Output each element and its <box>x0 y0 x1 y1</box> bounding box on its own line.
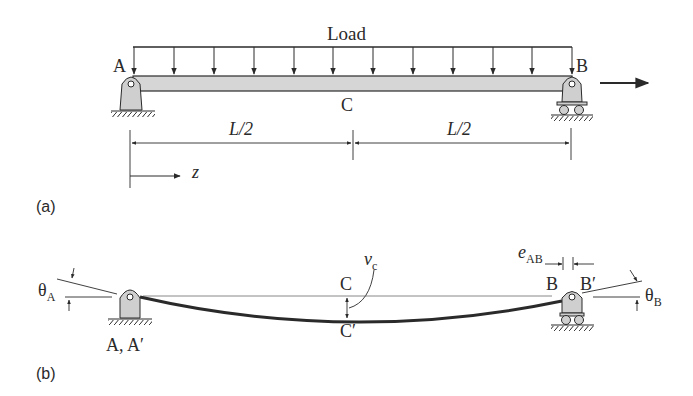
deflected-beam <box>140 297 562 322</box>
panel-label-a: (a) <box>36 199 56 215</box>
beam <box>133 76 572 91</box>
deflection-symbol: v <box>364 249 372 269</box>
span-right-label: L/2 <box>447 120 471 138</box>
load-label: Load <box>327 24 366 43</box>
deflection-label: vc <box>364 250 377 268</box>
pin-support-a-deflected <box>108 290 152 325</box>
theta-b-symbol: θ <box>645 285 654 305</box>
theta-a-subscript: A <box>47 290 56 304</box>
point-c-prime-label: C′ <box>340 322 356 340</box>
shortening-subscript: AB <box>526 252 543 266</box>
theta-a-symbol: θ <box>38 280 47 300</box>
shortening-label: eAB <box>518 243 543 261</box>
theta-a-label: θA <box>38 281 55 299</box>
shortening-eab <box>545 257 594 270</box>
roller-support-b-deflected <box>551 292 594 332</box>
shortening-symbol: e <box>518 242 526 262</box>
support-a-label: A, A′ <box>106 336 144 354</box>
point-a-label: A <box>113 57 126 75</box>
point-c-label-b: C <box>340 275 352 293</box>
theta-b-subscript: B <box>654 295 662 309</box>
point-b-prime-label: B′ <box>580 275 596 293</box>
theta-b-label: θB <box>645 286 662 304</box>
point-b-label: B <box>576 57 588 75</box>
rotation-angle-a <box>57 268 117 311</box>
deflection-subscript: c <box>372 259 377 273</box>
point-b-label-b: B <box>546 275 558 293</box>
point-c-label: C <box>341 96 353 114</box>
distributed-load <box>133 47 572 74</box>
load-arrows <box>134 47 572 74</box>
panel-label-b: (b) <box>36 366 56 382</box>
span-left-label: L/2 <box>229 120 253 138</box>
z-axis-label: z <box>192 163 199 181</box>
